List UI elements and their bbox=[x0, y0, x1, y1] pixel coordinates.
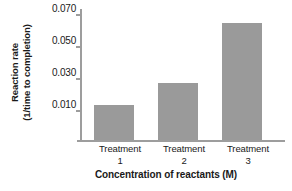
y-axis-tick-mark-0 bbox=[76, 14, 81, 16]
category-2-line-1: Treatment bbox=[202, 143, 292, 155]
y-axis-tick-label-2: 0.030 bbox=[38, 68, 76, 78]
category-2-line-2: 3 bbox=[202, 155, 292, 167]
y-axis-tick-label-1: 0.050 bbox=[38, 36, 76, 46]
x-axis-category-labels: Treatment 1 Treatment 2 Treatment 3 bbox=[80, 143, 282, 169]
y-axis-title: Reaction rate (1/time to completion) bbox=[0, 0, 40, 145]
bar-treatment-1 bbox=[94, 105, 134, 140]
y-axis-tick-label-3: 0.010 bbox=[38, 100, 76, 110]
bar-chart-figure: Reaction rate (1/time to completion) 0.0… bbox=[0, 0, 292, 191]
y-axis-title-line-2: (1/time to completion) bbox=[20, 24, 32, 121]
bar-treatment-2 bbox=[158, 83, 198, 140]
plot-area bbox=[80, 9, 282, 140]
y-axis-tick-mark-3 bbox=[76, 110, 81, 112]
x-axis-category-label-2: Treatment 3 bbox=[202, 143, 292, 166]
y-axis-tick-labels: 0.070 0.050 0.030 0.010 bbox=[38, 0, 76, 145]
y-axis-title-text: Reaction rate (1/time to completion) bbox=[9, 24, 32, 121]
x-axis-line bbox=[77, 140, 285, 142]
x-axis-title: Concentration of reactants (M) bbox=[40, 169, 292, 181]
y-axis-title-line-1: Reaction rate bbox=[9, 24, 21, 121]
y-axis-tick-mark-1 bbox=[76, 46, 81, 48]
y-axis-tick-mark-2 bbox=[76, 78, 81, 80]
y-axis-tick-label-0: 0.070 bbox=[38, 4, 76, 14]
bar-treatment-3 bbox=[222, 23, 262, 140]
y-axis-line bbox=[80, 9, 82, 140]
